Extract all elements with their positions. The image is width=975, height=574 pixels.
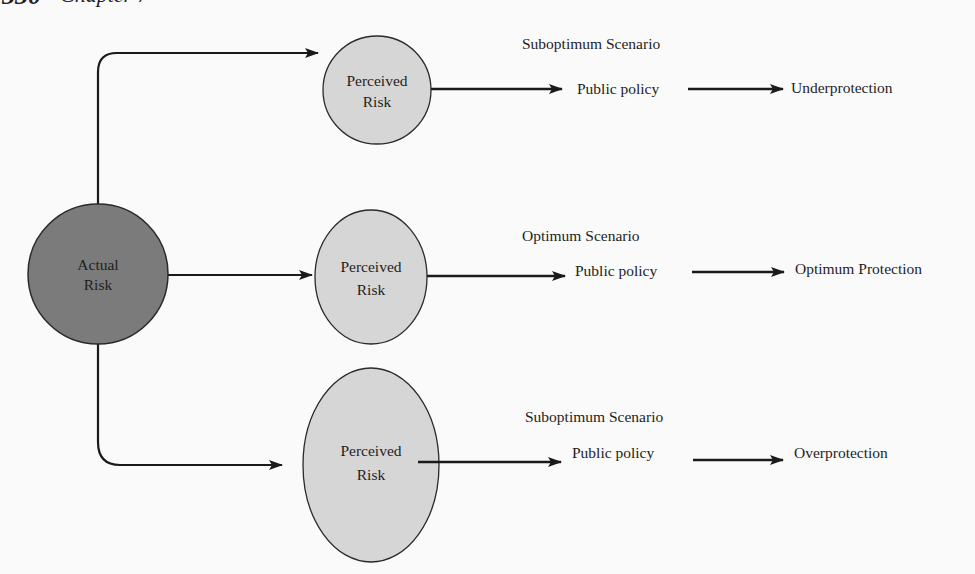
connector-top bbox=[98, 53, 318, 204]
connector-bottom bbox=[98, 344, 282, 465]
outcome-label: Optimum Protection bbox=[795, 260, 922, 277]
perceived-label-2: Risk bbox=[357, 281, 386, 298]
perceived-risk-node-medium: Perceived Risk bbox=[315, 210, 427, 344]
scenario-label: Suboptimum Scenario bbox=[525, 408, 663, 425]
perceived-label-1: Perceived bbox=[340, 258, 401, 275]
page-number: 330 bbox=[1, 0, 41, 10]
perceived-label-2: Risk bbox=[363, 93, 392, 110]
scenario-row-underprotection: Suboptimum Scenario Public policy Underp… bbox=[431, 35, 893, 97]
outcome-label: Overprotection bbox=[794, 444, 888, 461]
outcome-label: Underprotection bbox=[791, 79, 893, 96]
perceived-risk-node-large: Perceived Risk bbox=[303, 368, 439, 562]
scenario-row-optimum: Optimum Scenario Public policy Optimum P… bbox=[427, 227, 922, 279]
scenario-label: Suboptimum Scenario bbox=[522, 35, 660, 52]
perceived-label-1: Perceived bbox=[340, 442, 401, 459]
scenario-row-overprotection: Suboptimum Scenario Public policy Overpr… bbox=[418, 408, 888, 462]
policy-label: Public policy bbox=[575, 262, 657, 279]
risk-perception-diagram: 330 Chapter 7 Actual Risk Perceived Risk… bbox=[0, 0, 975, 574]
policy-label: Public policy bbox=[572, 444, 654, 461]
perceived-label-2: Risk bbox=[357, 466, 386, 483]
actual-risk-node: Actual Risk bbox=[28, 204, 168, 344]
policy-label: Public policy bbox=[577, 80, 659, 97]
actual-risk-label-1: Actual bbox=[77, 256, 118, 273]
actual-risk-label-2: Risk bbox=[84, 276, 113, 293]
perceived-risk-node-small: Perceived Risk bbox=[323, 36, 431, 144]
scenario-label: Optimum Scenario bbox=[522, 227, 640, 244]
page-header: 330 Chapter 7 bbox=[1, 0, 150, 10]
chapter-title: Chapter 7 bbox=[60, 0, 150, 7]
perceived-label-1: Perceived bbox=[346, 72, 407, 89]
